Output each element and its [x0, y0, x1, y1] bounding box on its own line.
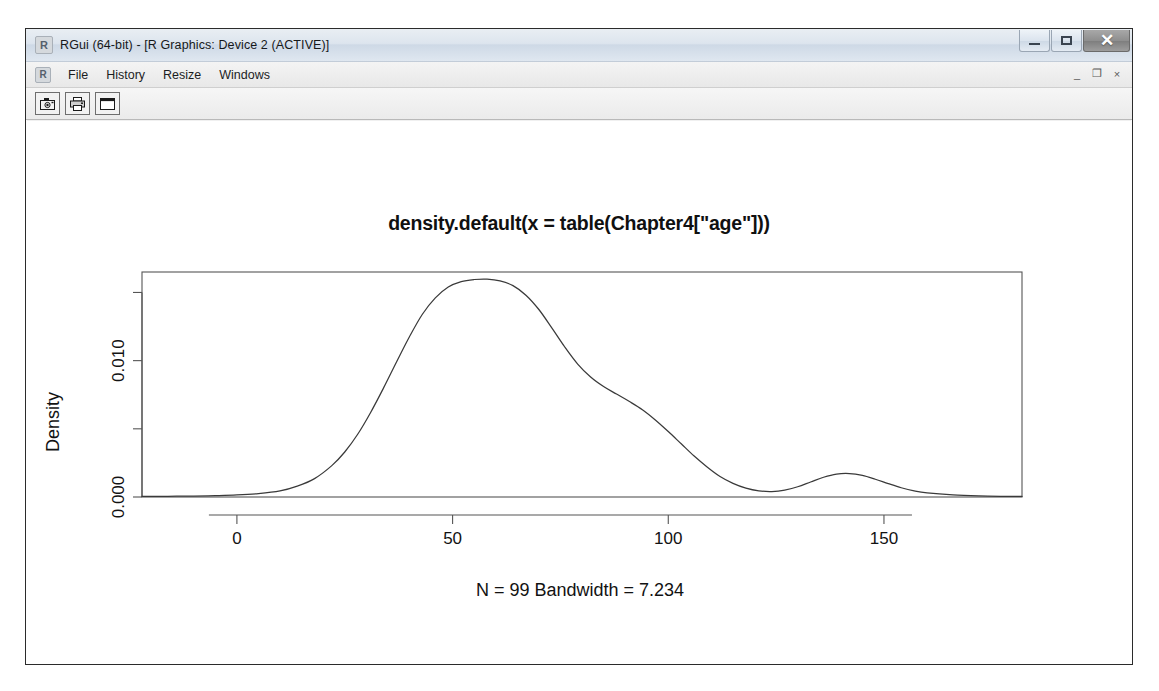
maximize-icon [1061, 36, 1072, 45]
mdi-minimize-button[interactable]: _ [1068, 65, 1086, 82]
svg-text:0: 0 [232, 529, 241, 548]
plot-box [142, 272, 1022, 497]
svg-text:0.010: 0.010 [109, 339, 128, 382]
mdi-restore-button[interactable]: ❐ [1088, 65, 1106, 82]
menu-item-windows[interactable]: Windows [210, 65, 279, 85]
y-axis [133, 292, 142, 497]
minimize-button[interactable] [1019, 30, 1050, 52]
close-button[interactable]: ✕ [1083, 30, 1130, 52]
y-tick-labels: 0.0000.010 [109, 339, 128, 518]
x-tick-labels: 050100150 [232, 529, 898, 548]
menu-item-resize[interactable]: Resize [154, 65, 210, 85]
mdi-window-controls: _ ❐ × [1068, 65, 1126, 82]
plot-subtitle: N = 99 Bandwidth = 7.234 [476, 580, 684, 600]
toolbar [26, 88, 1132, 120]
svg-text:50: 50 [443, 529, 462, 548]
svg-text:0.000: 0.000 [109, 476, 128, 519]
window-title: RGui (64-bit) - [R Graphics: Device 2 (A… [60, 38, 329, 52]
menu-bar: R File History Resize Windows _ ❐ × [26, 62, 1132, 88]
menu-item-history[interactable]: History [97, 65, 154, 85]
minimize-icon [1029, 43, 1040, 45]
device-window-button[interactable] [95, 92, 120, 115]
camera-icon [40, 97, 55, 110]
maximize-button[interactable] [1051, 30, 1082, 52]
svg-text:100: 100 [654, 529, 682, 548]
density-plot: 0.0000.010 050100150 Density N = 99 Band… [27, 122, 1131, 663]
printer-icon [70, 97, 85, 111]
close-icon: ✕ [1100, 32, 1114, 49]
copy-to-clipboard-button[interactable] [35, 92, 60, 115]
screen: R RGui (64-bit) - [R Graphics: Device 2 … [0, 0, 1159, 691]
r-logo-icon: R [35, 36, 53, 54]
rgui-main-window: R RGui (64-bit) - [R Graphics: Device 2 … [25, 28, 1133, 665]
print-button[interactable] [65, 92, 90, 115]
graphics-device-canvas: density.default(x = table(Chapter4["age"… [27, 121, 1131, 663]
svg-text:150: 150 [870, 529, 898, 548]
mdi-r-logo-icon: R [35, 67, 51, 83]
menu-item-file[interactable]: File [59, 65, 97, 85]
window-controls: ✕ [1018, 30, 1130, 53]
x-axis [209, 515, 912, 524]
mdi-close-button[interactable]: × [1108, 65, 1126, 82]
window-icon [100, 98, 115, 110]
window-title-bar[interactable]: R RGui (64-bit) - [R Graphics: Device 2 … [26, 29, 1132, 62]
y-axis-title: Density [43, 392, 63, 452]
density-curve [142, 279, 1022, 496]
